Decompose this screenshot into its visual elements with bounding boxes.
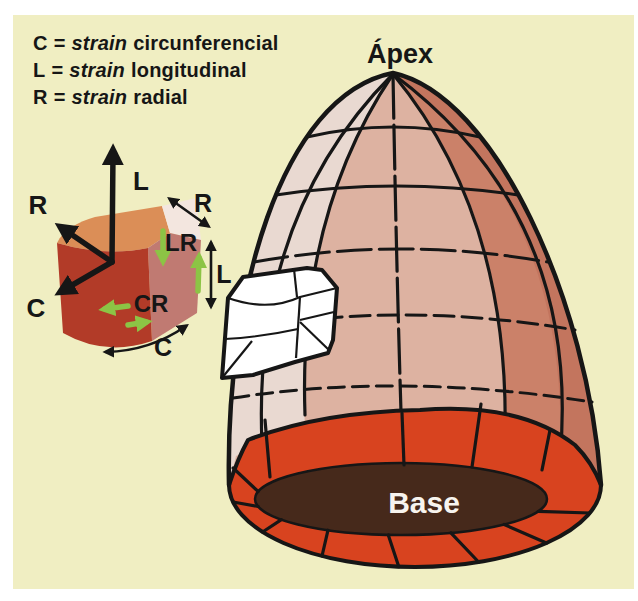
shear-cr-label: CR bbox=[134, 290, 169, 317]
legend-definition: radial bbox=[133, 84, 188, 111]
dim-c-label: C bbox=[154, 333, 172, 361]
axis-l-label: L bbox=[133, 166, 149, 196]
legend-term: C bbox=[33, 30, 48, 57]
base-label: Base bbox=[388, 486, 460, 519]
ring-spoke bbox=[538, 511, 590, 513]
legend-equals: = bbox=[54, 84, 66, 111]
figure-strain-diagram: Ápex Base bbox=[0, 0, 638, 601]
shear-arrow-right-icon bbox=[128, 322, 146, 325]
dim-l-label: L bbox=[216, 260, 231, 288]
legend-line-radial: R=strainradial bbox=[33, 84, 279, 111]
legend-definition: longitudinal bbox=[131, 57, 247, 84]
legend-term: L bbox=[33, 57, 45, 84]
shear-lr-label: LR bbox=[165, 229, 197, 256]
shear-arrow-up-icon bbox=[198, 258, 199, 291]
shear-arrow-left-icon bbox=[105, 306, 128, 309]
axis-r-label: R bbox=[29, 190, 48, 220]
legend-line-longitudinal: L=strainlongitudinal bbox=[33, 57, 279, 84]
legend-line-circumferential: C=straincircunferencial bbox=[33, 30, 279, 57]
legend-term: R bbox=[33, 84, 48, 111]
legend-strain-word: strain bbox=[69, 57, 125, 84]
apex-label: Ápex bbox=[367, 38, 433, 69]
legend-equals: = bbox=[51, 57, 63, 84]
legend-strain-word: strain bbox=[72, 84, 128, 111]
legend-equals: = bbox=[54, 30, 66, 57]
legend-strain-word: strain bbox=[72, 30, 128, 57]
legend: C=straincircunferencial L=strainlongitud… bbox=[33, 30, 279, 111]
ring-spoke bbox=[402, 413, 404, 465]
axis-c-label: C bbox=[27, 293, 46, 323]
axis-l-arrow-icon bbox=[112, 152, 113, 262]
dim-r-label: R bbox=[194, 189, 212, 217]
legend-definition: circunferencial bbox=[133, 30, 278, 57]
